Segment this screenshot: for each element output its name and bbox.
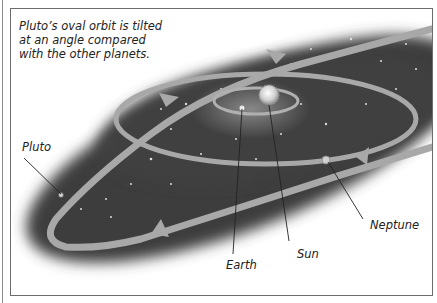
caption-line-3: with the other planets. [19, 47, 219, 61]
neptune-label: Neptune [370, 218, 419, 232]
earth-label: Earth [226, 258, 257, 272]
pluto-label: Pluto [22, 140, 51, 154]
diagram-caption: Pluto’s oval orbit is tilted at an angle… [19, 19, 219, 61]
page-edge-line [2, 0, 3, 303]
sun-icon [259, 85, 279, 105]
caption-line-2: at an angle compared [19, 33, 219, 47]
caption-line-1: Pluto’s oval orbit is tilted [19, 19, 219, 33]
pluto-icon [59, 193, 64, 198]
sun-label: Sun [297, 247, 319, 261]
